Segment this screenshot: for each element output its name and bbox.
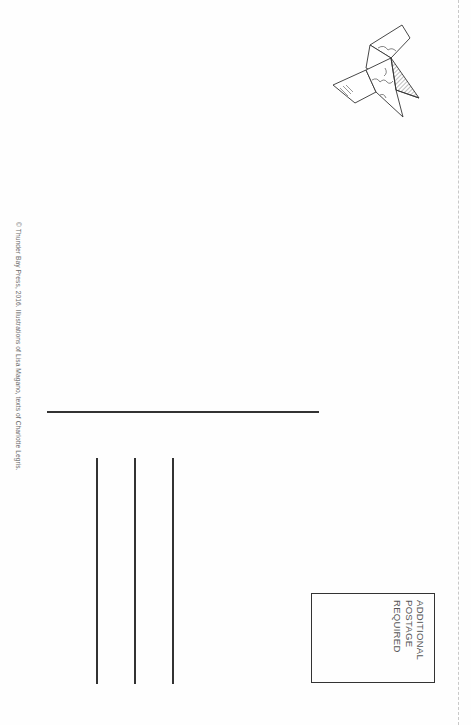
stamp-line-1: ADDITIONAL — [415, 600, 427, 660]
message-divider-line — [47, 411, 319, 413]
stamp-label: ADDITIONAL POSTAGE REQUIRED — [392, 600, 427, 660]
origami-bird-icon — [325, 18, 425, 123]
perforation-line — [458, 0, 459, 725]
stamp-box: ADDITIONAL POSTAGE REQUIRED — [311, 593, 435, 683]
address-line-1 — [96, 458, 98, 684]
stamp-line-3: REQUIRED — [392, 600, 404, 660]
stamp-line-2: POSTAGE — [403, 600, 415, 660]
postcard-back: © Thunder Bay Press, 2016. Illustrations… — [0, 0, 471, 725]
copyright-text: © Thunder Bay Press, 2016. Illustrations… — [15, 222, 22, 471]
address-line-2 — [134, 458, 136, 684]
address-line-3 — [172, 458, 174, 684]
